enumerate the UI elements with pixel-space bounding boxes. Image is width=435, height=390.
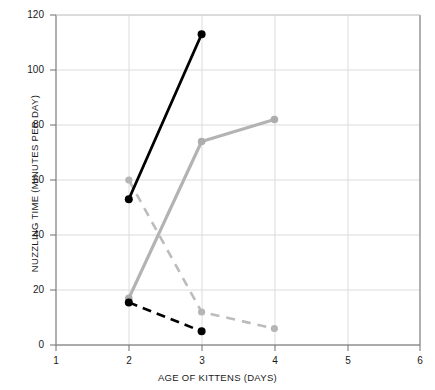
grid-lines	[56, 15, 420, 345]
x-tick-4: 4	[260, 355, 290, 366]
series-black-dashed	[125, 298, 206, 335]
x-axis-title: AGE OF KITTENS (DAYS)	[0, 372, 435, 383]
x-tick-2: 2	[114, 355, 144, 366]
axis-ticks	[50, 15, 420, 351]
plot-area	[0, 0, 435, 390]
x-tick-6: 6	[405, 355, 435, 366]
x-tick-5: 5	[333, 355, 363, 366]
x-tick-3: 3	[187, 355, 217, 366]
nuzzling-time-line-chart: 120 100 80 60 40 20 0 1 2 3 4 5 6 AGE OF…	[0, 0, 435, 390]
y-axis-title: NUZZLING TIME (MINUTES PER DAY)	[29, 19, 40, 349]
series-black-solid	[125, 30, 206, 203]
x-tick-1: 1	[41, 355, 71, 366]
